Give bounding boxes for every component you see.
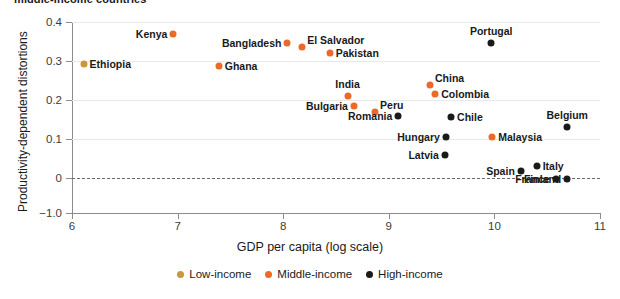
legend-label: High-income — [378, 268, 443, 280]
data-point[interactable] — [299, 44, 306, 51]
x-axis-title: GDP per capita (log scale) — [0, 240, 620, 254]
data-point[interactable] — [344, 92, 351, 99]
data-point[interactable] — [489, 134, 496, 141]
y-axis-tick-label: 0.3 — [46, 55, 62, 67]
scatter-chart-figure: middle-income countries Productivity-dep… — [0, 0, 620, 299]
data-point[interactable] — [442, 134, 449, 141]
data-point-label: Hungary — [397, 132, 440, 143]
plot-area: EthiopiaKenyaGhanaBangladeshEl SalvadorP… — [72, 22, 600, 213]
x-axis-tick-label: 11 — [580, 220, 620, 232]
x-axis-tick — [72, 213, 73, 219]
x-axis-tick-label: 7 — [158, 220, 198, 232]
y-axis-tick-label: 0.1 — [46, 133, 62, 145]
gridline — [72, 61, 600, 62]
x-axis-tick-label: 6 — [52, 220, 92, 232]
y-axis-tick-label: 0 — [56, 172, 62, 184]
x-axis-tick-label: 8 — [263, 220, 303, 232]
data-point-label: Kenya — [136, 29, 168, 40]
x-axis-tick — [494, 213, 495, 219]
data-point-label: Spain — [486, 166, 515, 177]
data-point-label: India — [335, 78, 360, 89]
data-point[interactable] — [395, 112, 402, 119]
legend-swatch-icon — [366, 271, 373, 278]
y-axis-tick-label: 0.2 — [46, 94, 62, 106]
data-point-label: Italy — [543, 161, 564, 172]
chart-title: middle-income countries — [14, 0, 147, 5]
data-point[interactable] — [284, 40, 291, 47]
data-point-label: Chile — [457, 112, 483, 123]
x-axis-tick — [600, 213, 601, 219]
data-point[interactable] — [448, 114, 455, 121]
data-point-label: Romania — [348, 110, 392, 121]
data-point[interactable] — [80, 61, 87, 68]
x-axis-tick-label: 9 — [369, 220, 409, 232]
x-axis-tick — [178, 213, 179, 219]
data-point-label: China — [435, 73, 464, 84]
data-point[interactable] — [350, 102, 357, 109]
data-point-label: Bulgaria — [306, 101, 348, 112]
data-point[interactable] — [426, 81, 433, 88]
data-point-label: Ethiopia — [90, 59, 131, 70]
legend-swatch-icon — [177, 271, 184, 278]
gridline — [72, 22, 600, 23]
data-point-label: Colombia — [441, 89, 489, 100]
data-point-label: Latvia — [408, 149, 438, 160]
data-point-label: Belgium — [547, 109, 588, 120]
data-point[interactable] — [533, 162, 540, 169]
data-point[interactable] — [441, 151, 448, 158]
y-axis-tick-label: 0.4 — [46, 16, 62, 28]
legend-item[interactable]: High-income — [366, 268, 443, 280]
data-point[interactable] — [326, 49, 333, 56]
legend-item[interactable]: Middle-income — [265, 268, 352, 280]
data-point-label: France — [515, 174, 549, 185]
data-point[interactable] — [215, 63, 222, 70]
data-point[interactable] — [552, 176, 559, 183]
data-point[interactable] — [488, 40, 495, 47]
legend-swatch-icon — [265, 271, 272, 278]
legend-label: Middle-income — [277, 268, 352, 280]
legend-label: Low-income — [189, 268, 251, 280]
data-point-label: Ghana — [225, 61, 258, 72]
data-point-label: Pakistan — [336, 48, 379, 59]
data-point[interactable] — [170, 31, 177, 38]
x-axis-tick-label: 10 — [474, 220, 514, 232]
y-axis-tick-label: −1.0 — [39, 207, 62, 219]
data-point[interactable] — [564, 123, 571, 130]
data-point[interactable] — [432, 90, 439, 97]
y-axis-title: Productivity-dependent distortions — [16, 31, 30, 212]
data-point[interactable] — [564, 176, 571, 183]
x-axis-line — [72, 213, 601, 214]
x-axis-tick — [283, 213, 284, 219]
data-point-label: Malaysia — [498, 132, 542, 143]
x-axis-tick — [389, 213, 390, 219]
data-point-label: Portugal — [470, 26, 513, 37]
data-point-label: El Salvador — [307, 35, 364, 46]
chart-legend: Low-incomeMiddle-incomeHigh-income — [0, 268, 620, 280]
data-point-label: Bangladesh — [222, 38, 282, 49]
legend-item[interactable]: Low-income — [177, 268, 251, 280]
